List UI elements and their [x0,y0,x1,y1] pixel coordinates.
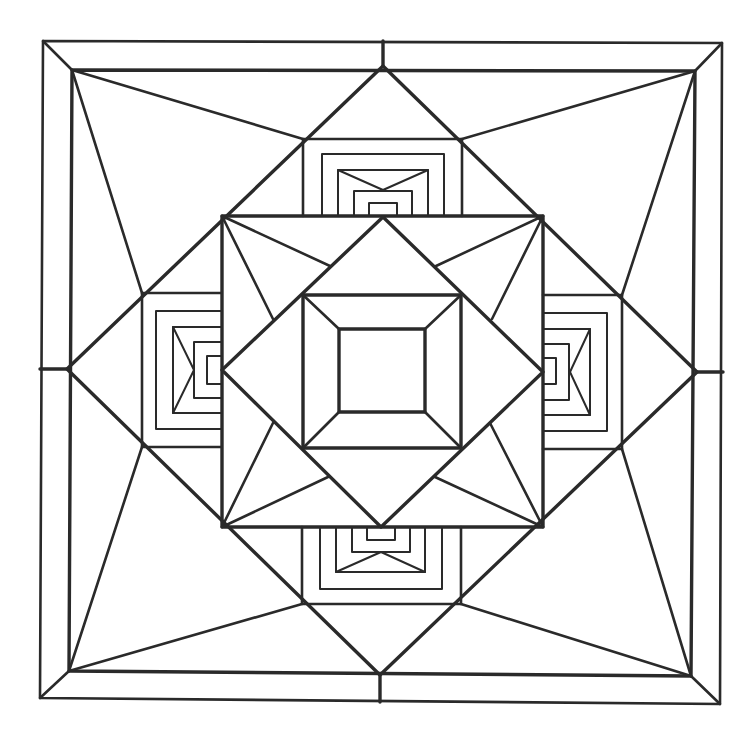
middle-spike-line [222,423,273,527]
center-inner-square [339,329,425,412]
left-panel-box [142,293,221,447]
left-panel-box [156,311,221,429]
left-panel-diagonal [173,370,194,413]
corner-spike-line [72,70,303,139]
middle-spike-line [435,477,543,527]
right-panel-diagonal [570,372,590,415]
top-panel-box [303,139,462,216]
right-panel-box [543,313,607,431]
corner-spike-line [72,70,142,293]
frame-miter-line [695,43,722,71]
middle-spike-line [490,423,543,527]
corner-spike-line [461,604,691,676]
coloring-page-canvas [0,0,753,736]
inner-border [69,70,695,676]
corner-spike-line [622,449,691,676]
middle-spike-line [436,216,543,266]
middle-spike-line [222,216,330,266]
center-bevel-line [425,295,461,329]
center-bevel-line [303,295,339,329]
bottom-panel-box [367,527,395,540]
geometric-mandala-drawing [0,0,753,736]
frame-miter-line [40,671,69,698]
middle-spike-line [492,216,543,319]
bottom-panel-diagonal [381,552,425,572]
inner-diamond-shape [222,217,543,527]
frame-miter-line [691,676,720,704]
inner-diamond [222,217,543,527]
corner-spike-line [622,71,695,295]
corner-spikes [69,70,695,676]
middle-spike-line [222,216,273,319]
corner-spike-line [69,604,302,671]
center-bevel-line [425,412,461,448]
right-panel-box [543,295,622,449]
bottom-panel-box [320,527,442,589]
top-panel-box [322,154,444,216]
left-panel-box [207,356,221,384]
left-panel-diagonal [173,327,194,370]
top-panel-diagonal [383,170,428,190]
right-panel-diagonal [570,329,590,372]
corner-spike-line [69,447,142,671]
bottom-panel-diagonal [336,552,381,572]
frame-miter-line [43,41,72,70]
top-panel-diagonal [338,170,383,190]
middle-spikes [222,216,543,527]
bottom-panel-box [302,527,461,604]
center-bevel-line [303,412,339,448]
big-diamond [67,66,697,675]
middle-spike-line [222,477,328,527]
side-panels [142,139,622,604]
big-diamond-shape [67,66,697,675]
right-panel-box [543,358,556,384]
middle-square-shape [222,216,543,527]
middle-square [222,216,543,527]
center-framed-square [303,295,461,448]
corner-spike-line [462,71,695,139]
top-panel-box [369,203,397,216]
